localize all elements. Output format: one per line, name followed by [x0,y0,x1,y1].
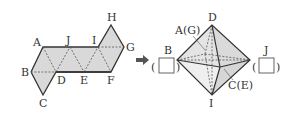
answer-box-left[interactable] [159,58,174,73]
label-lower-right: C(E) [228,79,253,92]
label-right-vertex: J [263,44,268,57]
label-H: H [107,11,117,24]
label-left-vertex: B [164,44,172,57]
answer-box-right[interactable] [259,58,274,73]
label-E: E [80,74,88,87]
label-F: F [107,74,115,87]
label-bottom: I [209,97,213,110]
label-G: G [126,41,135,54]
label-C: C [39,97,47,110]
octahedron-net: A J I H G B D E F C [21,11,135,110]
label-top: D [208,11,217,24]
label-D: D [57,74,66,87]
octahedron: D A(G) C(E) I B ( ) J ( ) [151,11,280,110]
label-J: J [65,34,70,47]
label-A: A [32,36,42,49]
close-paren: ) [176,61,180,74]
open-paren: ( [151,61,155,74]
label-I: I [92,34,96,47]
label-B: B [21,66,29,79]
diagram-canvas: A J I H G B D E F C [0,0,293,117]
label-upper-left: A(G) [174,24,200,37]
right-arrow-icon [136,55,149,65]
open-paren: ( [252,61,256,74]
close-paren: ) [276,61,280,74]
